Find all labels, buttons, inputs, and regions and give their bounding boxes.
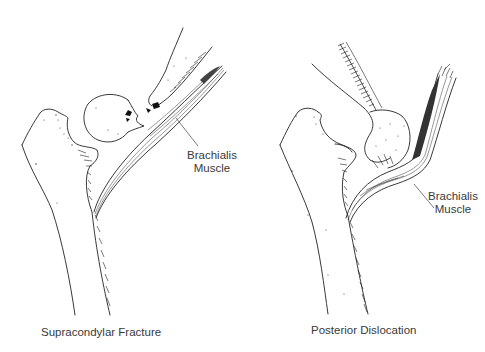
left-label-line2: Muscle (184, 162, 240, 175)
left-ulna (22, 109, 110, 315)
left-label-leader (176, 118, 198, 146)
left-humerus-shaft (146, 28, 212, 113)
right-caption: Posterior Dislocation (311, 324, 416, 336)
left-caption: Supracondylar Fracture (41, 326, 161, 338)
right-panel-drawing (280, 42, 456, 314)
right-ulna (280, 108, 368, 314)
left-brachialis-muscle (94, 66, 226, 218)
left-brachialis-label: Brachialis Muscle (184, 149, 240, 175)
right-brachialis-label: Brachialis Muscle (425, 190, 481, 216)
left-distal-fragment (84, 94, 144, 142)
right-label-line1: Brachialis (425, 190, 481, 203)
right-label-line2: Muscle (425, 203, 481, 216)
right-humerus-hatching (338, 42, 382, 110)
right-humerus (312, 42, 410, 168)
elbow-injury-illustration (0, 0, 485, 352)
left-label-line1: Brachialis (184, 149, 240, 162)
